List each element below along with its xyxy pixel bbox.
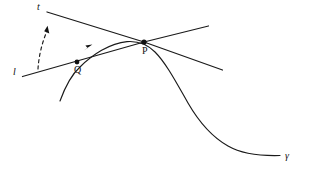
point-q-label: Q [74,65,81,75]
tangent-line-t-left-segment [47,12,144,42]
tangent-line-label: t [37,2,40,12]
curve-label: γ [285,151,289,161]
curve-direction-arrow-head-icon [84,45,93,51]
tangent-line-t-right-segment [144,26,209,42]
secant-line-l-right-segment [144,42,223,70]
point-p-marker [141,39,146,44]
secant-line-l-left-segment [23,42,145,77]
secant-line-label: l [13,67,16,77]
gamma-curve [60,41,280,155]
figure-canvas [0,0,312,170]
point-p-label: P [142,46,148,56]
rotation-arrow-head-icon [44,26,49,34]
rotation-arc-dashed [38,32,47,70]
geometry-figure: t l P Q γ [0,0,312,170]
